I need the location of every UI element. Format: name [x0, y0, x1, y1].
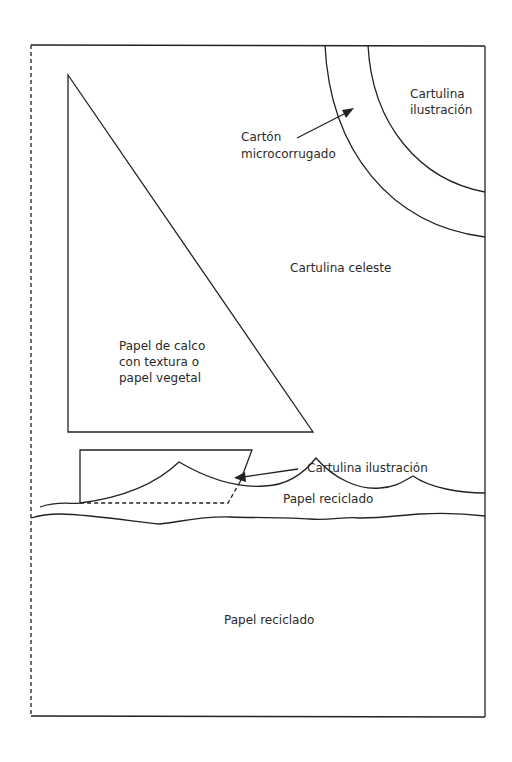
label-calco-1: Papel de calco: [119, 339, 205, 353]
label-calco-2: con textura o: [119, 355, 199, 369]
label-cartulina-celeste: Cartulina celeste: [290, 261, 391, 275]
label-papel-reciclado-lower: Papel reciclado: [224, 613, 314, 627]
arrow-carton: [297, 113, 346, 138]
label-cartulina-ilustracion-bottom: Cartulina ilustración: [307, 461, 428, 475]
arc-inner: [368, 45, 485, 192]
label-cartulina-ilustracion-top-2: ilustración: [410, 103, 472, 117]
boat-rect: [80, 450, 252, 503]
wave-lower: [31, 513, 485, 524]
arrowhead-carton-icon: [342, 108, 354, 118]
label-carton-2: microcorrugado: [241, 147, 336, 161]
frame-top: [31, 45, 485, 46]
label-calco-3: papel vegetal: [119, 371, 201, 385]
frame-bottom: [31, 716, 485, 717]
arrow-boat: [243, 469, 298, 477]
arc-outer: [325, 45, 485, 237]
collage-diagram: Cartulina ilustración Cartón microcorrug…: [0, 0, 512, 762]
boat-rect-dashed: [80, 482, 240, 503]
label-carton-1: Cartón: [241, 130, 281, 144]
label-cartulina-ilustracion-top-1: Cartulina: [410, 87, 465, 101]
label-papel-reciclado-upper: Papel reciclado: [283, 492, 373, 506]
